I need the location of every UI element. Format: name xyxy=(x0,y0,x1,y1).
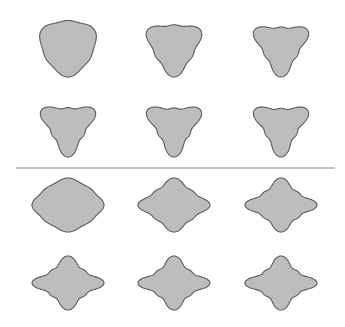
three-lobed-shape-6 xyxy=(253,107,308,157)
three-lobed-section xyxy=(40,20,309,157)
four-lobed-shape-4 xyxy=(32,256,104,310)
three-lobed-shape-3 xyxy=(253,27,308,77)
four-lobed-shape-5 xyxy=(138,256,210,310)
three-lobed-shape-2 xyxy=(146,25,202,77)
four-lobed-shape-6 xyxy=(245,256,317,310)
shape-figure xyxy=(0,0,345,327)
four-lobed-shape-3 xyxy=(245,178,317,232)
four-lobed-shape-2 xyxy=(138,178,210,232)
four-lobed-shape-1 xyxy=(32,178,104,232)
three-lobed-shape-1 xyxy=(40,20,97,77)
three-lobed-shape-4 xyxy=(40,107,95,157)
three-lobed-shape-5 xyxy=(146,107,201,157)
four-lobed-section xyxy=(32,178,317,310)
